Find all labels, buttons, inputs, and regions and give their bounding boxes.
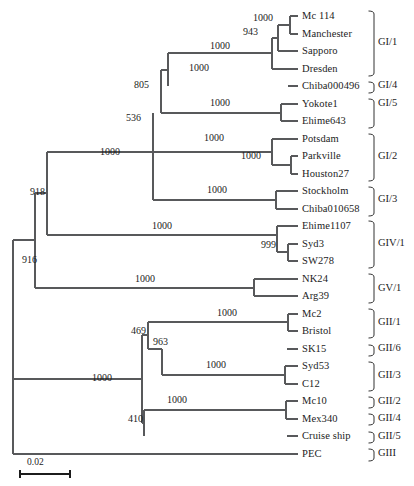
taxon-label: Mex340 (302, 414, 338, 425)
taxon-label: Arg39 (302, 291, 329, 302)
genogroup-bracket (368, 81, 376, 94)
genogroup-label: GI/1 (378, 37, 397, 48)
genogroup-label: GI/4 (378, 80, 397, 91)
genogroup-bracket (368, 361, 376, 392)
taxon-label: Mc 114 (302, 11, 335, 22)
bootstrap-value: 1000 (241, 151, 261, 161)
bootstrap-value: 963 (153, 337, 168, 347)
genogroup-bracket (368, 431, 376, 444)
genogroup-bracket (368, 344, 376, 357)
genogroup-bracket (368, 10, 376, 77)
taxon-label: Ehime643 (302, 116, 346, 127)
bootstrap-value: 1000 (210, 98, 230, 108)
genogroup-label: GII/5 (378, 431, 401, 442)
taxon-label: SW278 (302, 256, 334, 267)
bootstrap-value: 1000 (189, 63, 209, 73)
taxon-label: Houston27 (302, 169, 349, 180)
taxon-label: Chiba010658 (302, 204, 360, 215)
taxon-label: Cruise ship (302, 431, 351, 442)
genogroup-label: GII/1 (378, 317, 401, 328)
bootstrap-value: 999 (261, 240, 276, 250)
bootstrap-value: 469 (131, 326, 146, 336)
phylogenetic-tree-figure: Mc 114ManchesterSapporoDresdenChiba00049… (0, 0, 414, 486)
bootstrap-value: 536 (126, 113, 141, 123)
taxon-label: Syd3 (302, 239, 324, 250)
genogroup-bracket (368, 413, 376, 426)
taxon-label: NK24 (302, 274, 328, 285)
genogroup-label: GIII (378, 448, 396, 459)
genogroup-bracket (368, 186, 376, 217)
bootstrap-value: 1000 (253, 13, 273, 23)
taxon-label: PEC (302, 449, 322, 460)
taxon-label: Yokote1 (302, 99, 338, 110)
bootstrap-value: 805 (134, 80, 149, 90)
bootstrap-value: 1000 (167, 395, 187, 405)
bootstrap-value: 1000 (100, 147, 120, 157)
taxon-label: SK15 (302, 344, 326, 355)
scale-bar (18, 468, 108, 486)
taxon-label: Chiba000496 (302, 81, 360, 92)
genogroup-bracket (368, 396, 376, 409)
taxon-label: Mc2 (302, 309, 322, 320)
taxon-label: Potsdam (302, 134, 339, 145)
bootstrap-value: 1000 (217, 308, 237, 318)
genogroup-bracket (368, 133, 376, 182)
taxon-label: Ehime1107 (302, 221, 351, 232)
bootstrap-value: 1000 (207, 185, 227, 195)
genogroup-bracket (368, 98, 376, 129)
genogroup-label: GIV/1 (378, 238, 405, 249)
bootstrap-value: 1000 (135, 274, 155, 284)
genogroup-label: GI/2 (378, 151, 397, 162)
taxon-label: Syd53 (302, 361, 329, 372)
genogroup-bracket (368, 273, 376, 304)
genogroup-bracket (368, 448, 376, 462)
taxon-label: Manchester (302, 29, 352, 40)
bootstrap-value: 916 (22, 255, 37, 265)
taxon-label: C12 (302, 379, 320, 390)
bootstrap-value: 410 (128, 414, 143, 424)
bootstrap-value: 918 (30, 187, 45, 197)
genogroup-label: GII/6 (378, 343, 401, 354)
genogroup-label: GII/2 (378, 396, 401, 407)
bootstrap-value: 1000 (210, 41, 230, 51)
scale-bar-label: 0.02 (27, 458, 44, 468)
genogroup-bracket (368, 220, 376, 269)
bootstrap-value: 1000 (204, 133, 224, 143)
genogroup-label: GII/3 (378, 370, 401, 381)
bootstrap-value: 943 (243, 27, 258, 37)
genogroup-label: GV/1 (378, 283, 401, 294)
taxon-label: Dresden (302, 64, 338, 75)
taxon-label: Mc10 (302, 396, 327, 407)
taxon-label: Stockholm (302, 186, 348, 197)
taxon-label: Parkville (302, 151, 341, 162)
genogroup-label: GII/4 (378, 413, 401, 424)
bootstrap-value: 1000 (206, 360, 226, 370)
genogroup-label: GI/3 (378, 194, 397, 205)
taxon-label: Sapporo (302, 46, 338, 57)
bootstrap-value: 1000 (92, 373, 112, 383)
genogroup-bracket (368, 308, 376, 339)
bootstrap-value: 1000 (152, 221, 172, 231)
genogroup-label: GI/5 (378, 98, 397, 109)
taxon-label: Bristol (302, 326, 331, 337)
